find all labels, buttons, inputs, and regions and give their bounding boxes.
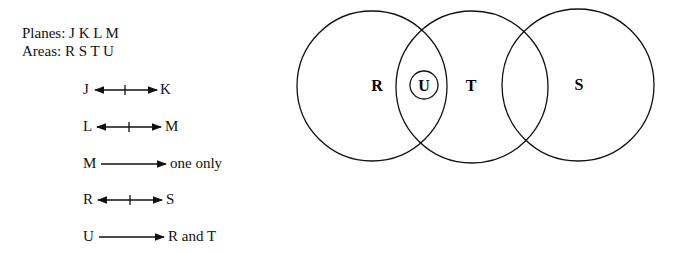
double-arrow-icon (97, 122, 161, 132)
label-t: T (466, 77, 477, 94)
label-r: R (371, 77, 383, 94)
label-s: S (575, 76, 584, 93)
double-arrow-icon (95, 85, 157, 95)
diagram-canvas: R U T S (0, 0, 684, 254)
label-u: U (418, 77, 430, 94)
double-arrow-icon (98, 195, 162, 205)
